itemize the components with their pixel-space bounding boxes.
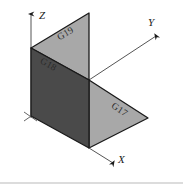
bottom-divider [0,182,183,184]
figure-container: G19 G17 G18 Z Y X [0,0,183,187]
z-axis-label: Z [39,9,46,21]
x-axis-line [89,148,113,163]
y-axis-label: Y [148,16,156,28]
isometric-diagram-svg: G19 G17 G18 Z Y X [0,0,183,187]
x-axis-label: X [117,153,126,165]
x-axis-group [89,148,113,163]
y-axis-line [89,36,156,80]
face-G17[interactable]: G17 [89,80,148,148]
